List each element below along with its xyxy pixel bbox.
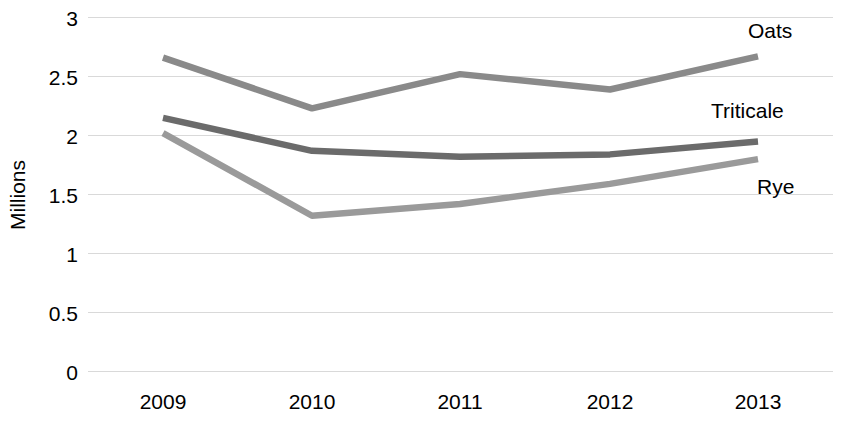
series-label-triticale: Triticale — [711, 100, 784, 121]
y-tick-label: 0 — [66, 362, 78, 383]
series-lines — [163, 56, 758, 215]
x-tick-label: 2012 — [587, 391, 634, 412]
x-tick-label: 2010 — [289, 391, 336, 412]
series-line-oats — [163, 56, 758, 108]
series-line-triticale — [163, 118, 758, 157]
y-axis-title: Millions — [6, 160, 30, 230]
y-tick-label: 2 — [66, 126, 78, 147]
y-tick-label: 2.5 — [49, 67, 78, 88]
y-tick-label: 0.5 — [49, 303, 78, 324]
series-line-rye — [163, 133, 758, 216]
x-tick-label: 2009 — [140, 391, 187, 412]
x-tick-label: 2013 — [735, 391, 782, 412]
y-tick-label: 1 — [66, 244, 78, 265]
series-label-oats: Oats — [748, 20, 792, 41]
line-chart: 00.511.522.53 20092010201120122013 Milli… — [0, 0, 845, 429]
x-tick-label: 2011 — [437, 391, 482, 412]
y-tick-label: 3 — [66, 8, 78, 29]
chart-plot-area — [0, 0, 845, 429]
series-label-rye: Rye — [757, 176, 794, 197]
y-tick-label: 1.5 — [49, 185, 78, 206]
